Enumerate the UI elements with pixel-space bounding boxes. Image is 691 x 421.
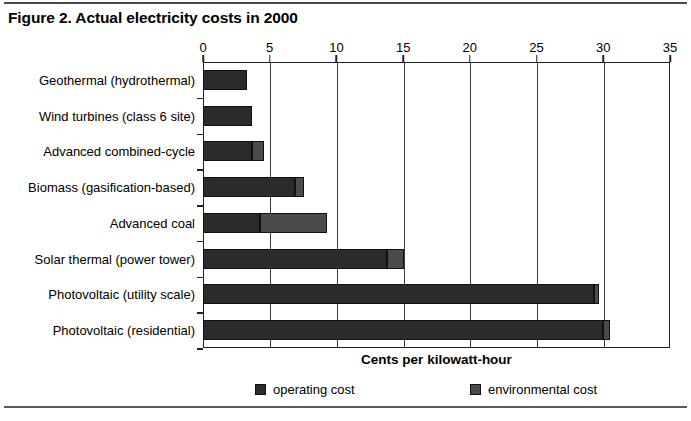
y-axis-tick-mark [197, 134, 203, 136]
x-axis-tick-label: 35 [663, 40, 677, 55]
x-axis-title: Cents per kilowatt-hour [203, 352, 670, 367]
bar-segment-operating-cost [203, 213, 260, 233]
x-axis-tick-mark [469, 55, 471, 62]
y-axis-tick-mark [197, 169, 203, 171]
category-label: Photovoltaic (utility scale) [48, 287, 195, 302]
legend-item-environmental-cost: environmental cost [470, 382, 597, 397]
bar-segment-operating-cost [203, 106, 252, 126]
x-axis-tick-mark [669, 55, 671, 62]
bar-segment-environmental-cost [295, 177, 304, 197]
y-axis-tick-mark [197, 241, 203, 243]
bar-segment-environmental-cost [252, 141, 264, 161]
x-axis-tick-mark [536, 55, 538, 62]
bar-segment-operating-cost [203, 70, 247, 90]
y-axis-tick-mark [197, 98, 203, 100]
x-axis-tick-label: 20 [463, 40, 477, 55]
bar-row [203, 320, 670, 340]
bar-segment-environmental-cost [260, 213, 327, 233]
bar-segment-environmental-cost [594, 284, 599, 304]
x-axis-tick-label: 25 [529, 40, 543, 55]
category-label: Solar thermal (power tower) [35, 252, 195, 267]
legend-swatch-operating-icon [255, 384, 266, 395]
legend-swatch-environmental-icon [470, 384, 481, 395]
figure-bottom-rule [4, 406, 687, 408]
x-axis-tick-label: 0 [199, 40, 206, 55]
x-axis-tick-label: 5 [266, 40, 273, 55]
bar-row [203, 141, 670, 161]
y-axis-tick-mark [197, 312, 203, 314]
x-axis-tick-mark [402, 55, 404, 62]
category-label: Biomass (gasification-based) [28, 180, 195, 195]
bar-segment-operating-cost [203, 141, 252, 161]
y-axis-tick-mark [197, 277, 203, 279]
bar-segment-operating-cost [203, 320, 603, 340]
bar-row [203, 213, 670, 233]
bar-segment-environmental-cost [603, 320, 610, 340]
category-label: Geothermal (hydrothermal) [39, 73, 195, 88]
x-axis-tick-label: 30 [596, 40, 610, 55]
category-label: Wind turbines (class 6 site) [39, 109, 195, 124]
y-axis-tick-mark [197, 205, 203, 207]
bar-row [203, 177, 670, 197]
category-label: Advanced combined-cycle [43, 144, 195, 159]
bar-segment-operating-cost [203, 177, 295, 197]
x-axis-tick-label: 15 [396, 40, 410, 55]
x-axis-tick-label: 10 [329, 40, 343, 55]
x-axis-tick-mark [269, 55, 271, 62]
legend-item-operating-cost: operating cost [255, 382, 355, 397]
y-axis-tick-mark [197, 348, 203, 350]
legend-label-environmental: environmental cost [488, 382, 597, 397]
bar-segment-operating-cost [203, 249, 387, 269]
bar-segment-environmental-cost [387, 249, 404, 269]
category-label: Photovoltaic (residential) [53, 323, 195, 338]
bar-row [203, 284, 670, 304]
bar-row [203, 106, 670, 126]
bar-row [203, 249, 670, 269]
x-axis-tick-mark [336, 55, 338, 62]
bar-segment-operating-cost [203, 284, 594, 304]
legend-label-operating: operating cost [273, 382, 355, 397]
chart-legend: operating cost environmental cost [203, 382, 670, 398]
category-label: Advanced coal [110, 216, 195, 231]
x-axis-tick-mark [603, 55, 605, 62]
bar-row [203, 70, 670, 90]
x-axis-tick-mark [202, 55, 204, 62]
